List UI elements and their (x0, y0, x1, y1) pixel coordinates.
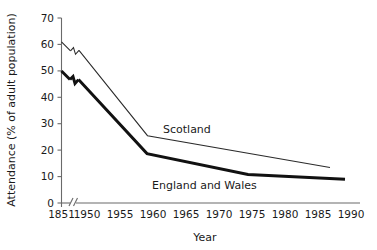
chart-figure: 0 10 20 30 40 50 60 70 Attendance (% of … (0, 0, 377, 250)
line-chart-canvas: 0 10 20 30 40 50 60 70 Attendance (% of … (0, 0, 377, 250)
y-tick-label-30: 30 (41, 117, 54, 129)
x-tick-label-1985: 1985 (305, 208, 332, 220)
scotland-break-marker-icon (71, 48, 80, 55)
england-wales-line-segment-start (62, 71, 71, 80)
x-tick-label-1955: 1955 (107, 208, 134, 220)
england-wales-break-marker-icon (70, 77, 79, 84)
x-tick-label-1950: 1950 (74, 208, 101, 220)
x-tick-label-1965: 1965 (173, 208, 200, 220)
y-tick-label-50: 50 (41, 64, 54, 76)
y-axis: 0 10 20 30 40 50 60 70 Attendance (% of … (5, 12, 62, 209)
y-tick-label-10: 10 (41, 170, 54, 182)
y-tick-label-60: 60 (41, 38, 54, 50)
series-label-scotland: Scotland (163, 123, 211, 136)
x-tick-label-1980: 1980 (272, 208, 299, 220)
x-tick-label-1851: 1851 (48, 208, 75, 220)
y-tick-label-0: 0 (47, 197, 54, 209)
y-tick-label-20: 20 (41, 144, 54, 156)
series-label-england-and-wales: England and Wales (152, 179, 257, 192)
x-axis-break-icon (69, 198, 78, 206)
x-tick-label-1970: 1970 (206, 208, 233, 220)
x-tick-label-1990: 1990 (338, 208, 365, 220)
y-tick-label-40: 40 (41, 91, 54, 103)
x-axis-title: Year (192, 231, 217, 244)
scotland-line-segment-main (79, 50, 330, 167)
y-tick-label-70: 70 (41, 12, 54, 24)
scotland-line-segment-start (62, 42, 71, 51)
x-tick-label-1975: 1975 (239, 208, 266, 220)
x-tick-label-1960: 1960 (140, 208, 167, 220)
y-axis-title: Attendance (% of adult population) (5, 13, 18, 206)
x-axis: 1851 1950 1955 1960 1965 1970 1975 1980 … (48, 198, 364, 244)
england-wales-line-segment-main (79, 80, 346, 180)
